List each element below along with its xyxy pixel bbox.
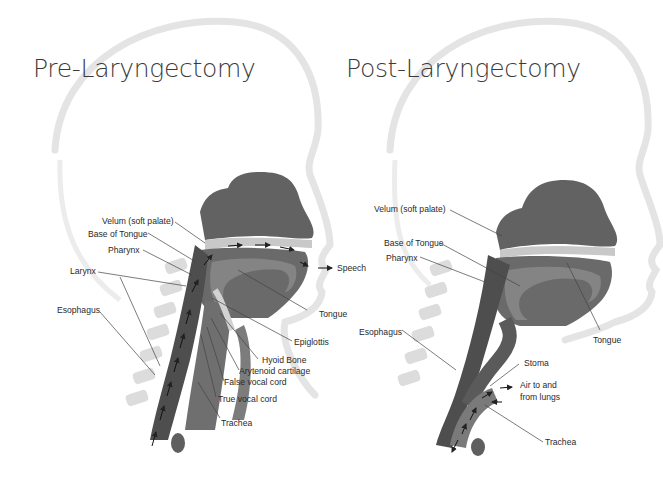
post-label-stoma: Stoma bbox=[524, 358, 549, 368]
pre-label-pharynx: Pharynx bbox=[108, 245, 140, 255]
pre-label-esophagus: Esophagus bbox=[57, 305, 100, 315]
post-label-trachea: Trachea bbox=[545, 437, 576, 447]
pre-label-trachea: Trachea bbox=[221, 418, 252, 428]
post-label-air-line1: Air to and bbox=[520, 380, 557, 390]
pre-label-base-of-tongue: Base of Tongue bbox=[88, 229, 148, 239]
pre-label-larynx: Larynx bbox=[70, 266, 96, 276]
laryngectomy-diagram: Pre-Laryngectomy Post-Laryngectomy Velum… bbox=[0, 0, 663, 481]
pre-label-velum: Velum (soft palate) bbox=[102, 216, 174, 226]
post-label-esophagus: Esophagus bbox=[359, 327, 402, 337]
pre-label-false-vocal-cord: False vocal cord bbox=[224, 377, 287, 387]
pre-label-hyoid-bone: Hyoid Bone bbox=[262, 355, 306, 365]
post-label-tongue: Tongue bbox=[593, 335, 621, 345]
pre-title: Pre-Laryngectomy bbox=[33, 54, 256, 83]
pre-label-arytenoid-cartilage: Arytenoid cartilage bbox=[239, 366, 310, 376]
post-label-pharynx: Pharynx bbox=[386, 253, 418, 263]
pre-label-speech: Speech bbox=[337, 263, 366, 273]
pre-label-true-vocal-cord: True vocal cord bbox=[218, 394, 277, 404]
post-title: Post-Laryngectomy bbox=[346, 54, 581, 83]
pre-label-tongue: Tongue bbox=[319, 309, 347, 319]
post-label-velum: Velum (soft palate) bbox=[374, 204, 446, 214]
post-label-air-line2: from lungs bbox=[520, 392, 560, 402]
post-label-base-of-tongue: Base of Tongue bbox=[384, 238, 444, 248]
pre-label-epiglottis: Epiglottis bbox=[294, 337, 329, 347]
